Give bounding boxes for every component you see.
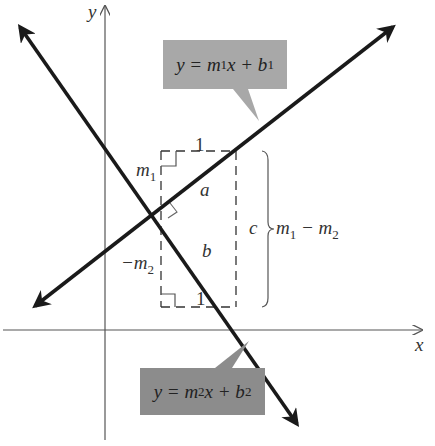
neg-m2-text: −m xyxy=(121,252,148,273)
eq2-sub2: 2 xyxy=(245,384,252,400)
line-2-equation-callout: y = m2x + b2 xyxy=(140,368,265,415)
x-axis-label: x xyxy=(415,335,423,354)
m1-text: m xyxy=(136,159,150,180)
m1-sub: 1 xyxy=(150,169,157,184)
eq2-mid: x + b xyxy=(205,381,245,403)
eq1-lhs: y = m xyxy=(176,54,220,76)
eq1-sub2: 1 xyxy=(267,57,274,73)
brace xyxy=(262,151,274,307)
eq1-mid: x + b xyxy=(227,54,267,76)
callout-pointer-top xyxy=(233,89,259,121)
brace-label-m1-minus-m2: m1 − m2 xyxy=(276,218,339,241)
brace-m1: m xyxy=(276,217,290,238)
run-label-bottom: 1 xyxy=(196,289,206,308)
brace-minus-m: − m xyxy=(296,217,332,238)
line-1-equation-callout: y = m1x + b1 xyxy=(163,40,287,89)
slope-neg-m2-label: −m2 xyxy=(121,253,154,276)
slope-m1-label: m1 xyxy=(136,160,156,183)
hypotenuse-c-label: c xyxy=(249,218,257,237)
y-axis-label: y xyxy=(88,2,96,21)
segment-b-label: b xyxy=(202,241,212,260)
brace-sub2: 2 xyxy=(332,227,339,242)
right-angle-marker-bottom xyxy=(161,294,175,307)
segment-a-label: a xyxy=(200,180,210,199)
run-label-top: 1 xyxy=(195,135,205,154)
right-angle-marker-top xyxy=(161,151,176,166)
eq2-lhs: y = m xyxy=(154,381,198,403)
m2-sub: 2 xyxy=(148,262,155,277)
right-angle-marker-intersection xyxy=(168,203,177,218)
